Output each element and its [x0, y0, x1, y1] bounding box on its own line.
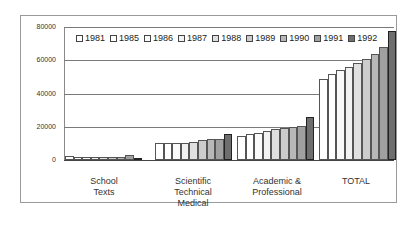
bar-1990 [117, 157, 126, 160]
bar-1992 [306, 117, 315, 160]
legend-label: 1990 [289, 33, 309, 43]
bar-1985 [328, 74, 337, 160]
y-tick-label: 80000 [16, 23, 56, 30]
bar-1990 [207, 139, 216, 160]
bar-1987 [181, 143, 190, 160]
legend-item: 1986 [144, 33, 173, 43]
gridline [64, 60, 394, 61]
bar-1981 [65, 156, 74, 160]
bar-1986 [82, 157, 91, 160]
bar-1988 [353, 63, 362, 160]
bar-1987 [345, 67, 354, 160]
bar-1986 [172, 143, 181, 160]
legend-swatch-icon [110, 35, 117, 42]
gridline [64, 27, 394, 28]
bar-1986 [254, 133, 263, 160]
bar-1981 [237, 136, 246, 160]
legend-label: 1988 [221, 33, 241, 43]
bar-1988 [189, 142, 198, 160]
bar-1989 [198, 140, 207, 160]
legend-item: 1991 [314, 33, 343, 43]
legend-swatch-icon [246, 35, 253, 42]
x-axis-line [64, 160, 394, 161]
bar-1987 [91, 157, 100, 160]
legend-item: 1981 [76, 33, 105, 43]
legend-item: 1988 [212, 33, 241, 43]
bar-1988 [99, 157, 108, 160]
legend-label: 1985 [119, 33, 139, 43]
legend-swatch-icon [348, 35, 355, 42]
y-tick-label: 0 [16, 156, 56, 163]
legend-swatch-icon [280, 35, 287, 42]
category-label: SchoolTexts [64, 176, 144, 198]
legend-label: 1981 [85, 33, 105, 43]
legend-label: 1989 [255, 33, 275, 43]
bar-1986 [336, 70, 345, 160]
legend-item: 1985 [110, 33, 139, 43]
bar-1992 [134, 158, 143, 161]
bar-1990 [371, 54, 380, 160]
legend: 198119851986198719881989199019911992 [76, 33, 377, 43]
legend-item: 1992 [348, 33, 377, 43]
legend-item: 1987 [178, 33, 207, 43]
legend-swatch-icon [144, 35, 151, 42]
bar-1991 [379, 47, 388, 160]
bar-1991 [215, 139, 224, 160]
legend-swatch-icon [76, 35, 83, 42]
y-tick-label: 40000 [16, 90, 56, 97]
legend-swatch-icon [178, 35, 185, 42]
bar-1991 [297, 126, 306, 160]
category-label: ScientificTechnicalMedical [153, 176, 233, 209]
legend-label: 1986 [153, 33, 173, 43]
bar-1992 [388, 31, 397, 160]
bar-1991 [125, 155, 134, 160]
bar-1985 [164, 143, 173, 160]
legend-swatch-icon [314, 35, 321, 42]
bar-1981 [319, 79, 328, 160]
bar-1988 [271, 129, 280, 160]
bar-1985 [246, 134, 255, 160]
bar-1985 [74, 157, 83, 160]
legend-swatch-icon [212, 35, 219, 42]
y-tick-label: 20000 [16, 123, 56, 130]
bar-1989 [280, 128, 289, 160]
y-tick-label: 60000 [16, 56, 56, 63]
bar-1989 [362, 59, 371, 160]
bar-1989 [108, 157, 117, 160]
category-label: TOTAL [316, 176, 396, 187]
category-label: Academic &Professional [237, 176, 317, 198]
bar-1992 [224, 134, 233, 160]
bar-1981 [155, 143, 164, 160]
bar-1990 [289, 127, 298, 160]
legend-item: 1989 [246, 33, 275, 43]
legend-label: 1987 [187, 33, 207, 43]
legend-item: 1990 [280, 33, 309, 43]
legend-label: 1992 [357, 33, 377, 43]
bar-1987 [263, 131, 272, 160]
legend-label: 1991 [323, 33, 343, 43]
